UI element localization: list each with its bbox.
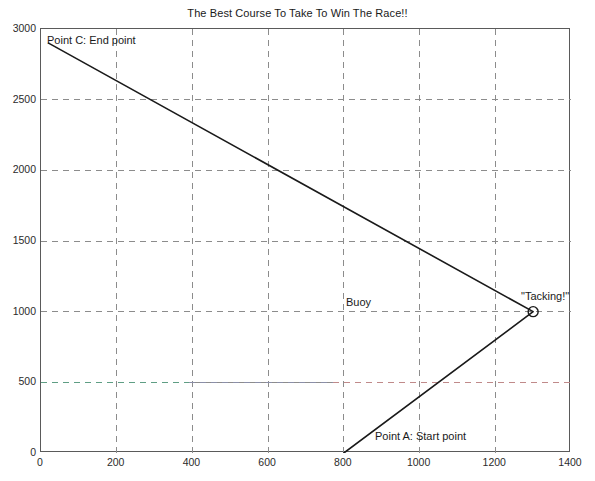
xtick-label: 1400: [558, 456, 581, 468]
ytick-label: 3000: [0, 22, 36, 34]
chart-figure: The Best Course To Take To Win The Race!…: [0, 0, 595, 481]
ytick-label: 1000: [0, 305, 36, 317]
x-axis-ticks: 0 200 400 600 800 1000 1200 1400: [40, 456, 570, 472]
page-title: The Best Course To Take To Win The Race!…: [0, 7, 595, 19]
course-line: [49, 43, 534, 453]
xtick-label: 600: [258, 456, 276, 468]
ytick-label: 2500: [0, 93, 36, 105]
xtick-label: 800: [334, 456, 352, 468]
plot-area: [40, 28, 570, 452]
reference-line-500: [41, 382, 571, 453]
annotation-buoy: Buoy: [346, 296, 371, 308]
ytick-label: 2000: [0, 163, 36, 175]
xtick-label: 1000: [407, 456, 430, 468]
y-axis-ticks: 0 500 1000 1500 2000 2500 3000: [0, 28, 36, 452]
ytick-label: 500: [0, 375, 36, 387]
annotation-point-a: Point A: Start point: [375, 430, 466, 442]
xtick-label: 400: [183, 456, 201, 468]
plot-canvas: [41, 29, 571, 453]
annotation-tacking: "Tacking!": [521, 290, 569, 302]
horizontal-gridlines: [41, 100, 571, 312]
xtick-label: 1200: [483, 456, 506, 468]
ytick-label: 1500: [0, 234, 36, 246]
xtick-label: 200: [107, 456, 125, 468]
annotation-point-c: Point C: End point: [47, 34, 136, 46]
ytick-label: 0: [0, 446, 36, 458]
xtick-label: 0: [37, 456, 43, 468]
